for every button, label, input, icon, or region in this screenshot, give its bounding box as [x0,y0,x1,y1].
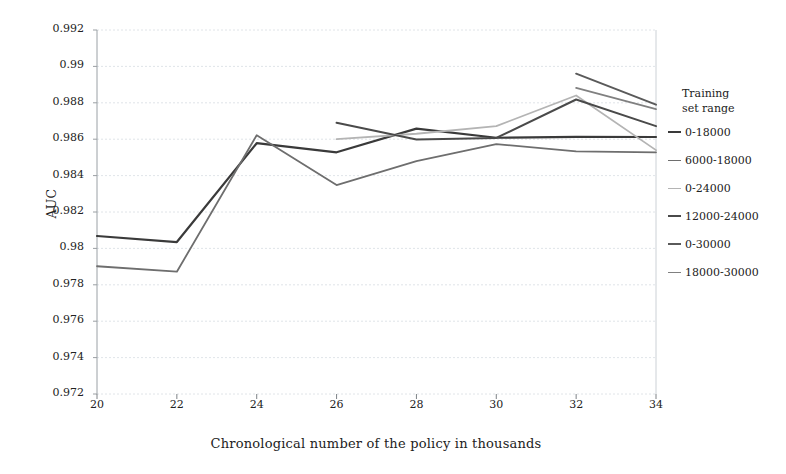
y-axis-tick-label: 0.992 [30,24,84,34]
series-line [337,96,656,151]
x-axis-tick-label: 30 [476,398,516,411]
series-line [337,100,656,140]
data-series-layer [97,74,656,272]
x-axis-tick-label: 20 [77,398,117,411]
legend-item[interactable]: 0-24000 [668,181,784,195]
series-line [97,129,656,242]
y-axis-tick-label: 0.976 [30,315,84,325]
legend-item[interactable]: 0-18000 [668,125,784,139]
y-axis-tick-label: 0.984 [30,170,84,180]
legend-item-label: 12000-24000 [685,210,759,223]
legend-item[interactable]: 0-30000 [668,237,784,251]
legend: Training set range 0-180006000-180000-24… [668,86,784,293]
legend-item-label: 18000-30000 [685,266,759,279]
y-axis-tick-label: 0.978 [30,279,84,289]
y-axis-tick-label: 0.99 [30,60,84,70]
y-axis-tick-label: 0.974 [30,352,84,362]
legend-color-swatch [668,215,681,217]
legend-item[interactable]: 18000-30000 [668,265,784,279]
y-axis-tick-label: 0.988 [30,97,84,107]
legend-item-label: 0-30000 [685,238,731,251]
grid-lines [97,30,656,394]
legend-item[interactable]: 6000-18000 [668,153,784,167]
series-line [576,88,656,109]
y-axis-tick-label: 0.982 [30,206,84,216]
legend-color-swatch [668,272,681,273]
legend-items: 0-180006000-180000-2400012000-240000-300… [668,125,784,279]
legend-title: Training set range [682,86,784,116]
x-axis-tick-label: 26 [317,398,357,411]
axis-lines [93,30,656,399]
x-axis-tick-label: 22 [157,398,197,411]
x-axis-tick-label: 28 [396,398,436,411]
x-axis-tick-label: 24 [237,398,277,411]
series-line [576,74,656,105]
series-line [97,135,656,272]
x-axis-title: Chronological number of the policy in th… [96,436,656,451]
legend-color-swatch [668,243,681,245]
line-chart: AUC Chronological number of the policy i… [0,0,786,474]
y-axis-tick-label: 0.98 [30,242,84,252]
x-axis-tick-label: 34 [636,398,676,411]
legend-color-swatch [668,131,681,133]
y-axis-tick-label: 0.972 [30,388,84,398]
x-axis-tick-label: 32 [556,398,596,411]
y-axis-tick-label: 0.986 [30,133,84,143]
legend-color-swatch [668,188,681,189]
legend-color-swatch [668,160,681,161]
legend-item[interactable]: 12000-24000 [668,209,784,223]
legend-item-label: 0-24000 [685,182,731,195]
legend-item-label: 0-18000 [685,126,731,139]
legend-item-label: 6000-18000 [685,154,752,167]
